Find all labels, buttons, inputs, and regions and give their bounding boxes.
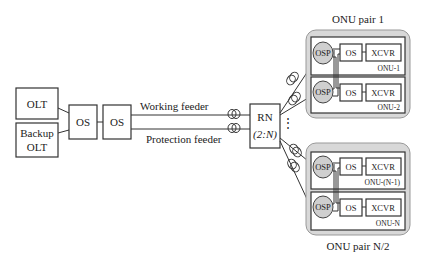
fiber-coil-icon	[286, 158, 301, 174]
onu-pair-1-title: ONU pair 1	[332, 13, 384, 25]
fiber-coil-icon	[228, 110, 240, 119]
osp-label: OSP	[315, 48, 331, 58]
onu-name: ONU-(N-1)	[365, 178, 401, 187]
fiber-coil-icon	[285, 71, 300, 87]
xcvr-label: XCVR	[371, 88, 395, 98]
backup-olt-node: Backup OLT	[16, 123, 58, 157]
onu-pair-1: ONU pair 1 OSP OS XCVR ONU-1 OSP OS XCVR…	[306, 13, 410, 118]
olt-os-link	[58, 108, 69, 113]
os-label: OS	[346, 48, 357, 58]
rn-ratio-label: (2:N)	[253, 128, 277, 141]
os-switch-2-label: OS	[110, 116, 124, 128]
fiber-coil-icon	[228, 124, 240, 133]
onu-pair-n2: OSP OS XCVR ONU-(N-1) OSP OS XCVR ONU-N	[306, 143, 410, 252]
onu-1: OSP OS XCVR ONU-1	[311, 37, 405, 75]
os-switch-1-label: OS	[76, 116, 90, 128]
ellipsis-icon: ⋮	[282, 116, 294, 130]
os-switch-2: OS	[103, 105, 131, 139]
onu-name: ONU-2	[378, 103, 401, 112]
fiber-coil-icon	[287, 91, 302, 107]
backup-olt-os-link	[58, 130, 69, 133]
working-feeder-label: Working feeder	[140, 100, 209, 112]
xcvr-label: XCVR	[371, 48, 395, 58]
rn-label: RN	[257, 111, 272, 123]
onu-name: ONU-N	[376, 219, 401, 228]
onu-n: OSP OS XCVR ONU-N	[311, 192, 405, 230]
olt-node: OLT	[16, 88, 58, 119]
xcvr-label: XCVR	[371, 162, 395, 172]
os-label: OS	[346, 88, 357, 98]
backup-olt-label-line2: OLT	[27, 141, 48, 153]
onu-name: ONU-1	[378, 64, 401, 73]
working-feeder: Working feeder	[131, 100, 250, 119]
os-switch-1: OS	[69, 105, 97, 139]
osp-label: OSP	[315, 162, 331, 172]
osp-label: OSP	[315, 87, 331, 97]
onu-pair-n2-title: ONU pair N/2	[327, 240, 390, 252]
onu-2: OSP OS XCVR ONU-2	[311, 77, 405, 113]
protection-feeder: Protection feeder	[131, 124, 250, 146]
xcvr-label: XCVR	[371, 203, 395, 213]
olt-label: OLT	[27, 98, 48, 110]
backup-olt-label-line1: Backup	[20, 127, 54, 139]
os-label: OS	[346, 162, 357, 172]
pon-protection-diagram: OLT Backup OLT OS OS Working feeder Prot…	[0, 0, 429, 268]
onu-n-minus-1: OSP OS XCVR ONU-(N-1)	[311, 152, 405, 189]
os-label: OS	[346, 203, 357, 213]
remote-node: RN (2:N)	[250, 104, 280, 148]
protection-feeder-label: Protection feeder	[146, 133, 222, 145]
osp-label: OSP	[315, 202, 331, 212]
